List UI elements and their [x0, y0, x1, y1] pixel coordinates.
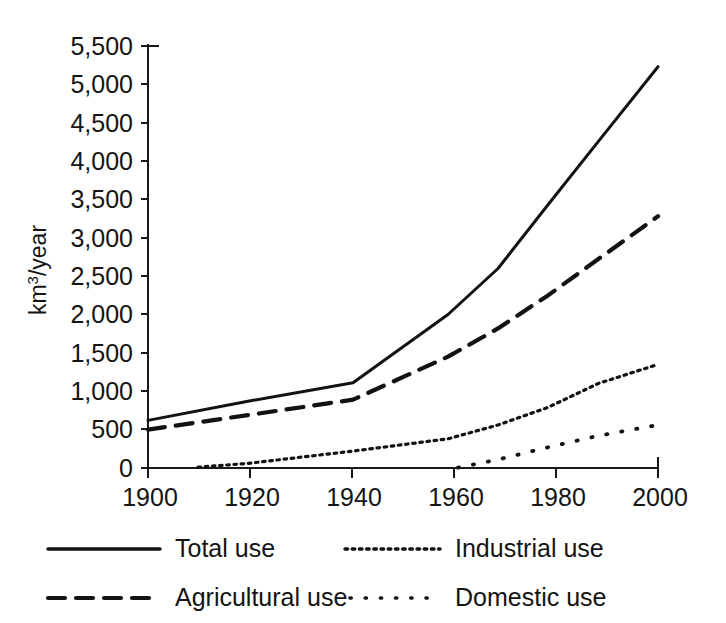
legend-label-industrial-use: Industrial use [455, 534, 604, 562]
y-axis-title-tail: /year [25, 225, 51, 276]
chart-legend: Total use Industrial use Agricultural us… [48, 534, 606, 611]
y-tick-label: 5,500 [70, 32, 133, 60]
y-tick-label: 0 [119, 454, 133, 482]
data-series-group [148, 67, 658, 468]
x-tick-marks [148, 468, 658, 478]
y-tick-label: 4,500 [70, 109, 133, 137]
series-line-domestic-use [458, 425, 658, 468]
line-chart: km3/year 5,500 5,000 [0, 0, 726, 623]
y-tick-label: 2,500 [70, 262, 133, 290]
y-axis-title-superscript: 3 [24, 276, 41, 284]
series-line-industrial-use [198, 364, 658, 467]
y-tick-label: 1,500 [70, 339, 133, 367]
svg-text:km3/year: km3/year [24, 225, 51, 315]
x-tick-label: 1980 [530, 483, 586, 511]
chart-figure: km3/year 5,500 5,000 [0, 0, 726, 623]
y-tick-labels: 5,500 5,000 4,500 4,000 3,500 3,000 2,50… [70, 32, 133, 482]
y-tick-label: 3,500 [70, 185, 133, 213]
legend-label-total-use: Total use [175, 534, 275, 562]
series-line-agricultural-use [148, 216, 658, 429]
x-tick-label: 1960 [428, 483, 484, 511]
y-tick-label: 500 [91, 415, 133, 443]
y-tick-label: 1,000 [70, 377, 133, 405]
x-tick-label: 1920 [224, 483, 280, 511]
x-tick-label: 2000 [632, 483, 688, 511]
y-tick-label: 4,000 [70, 147, 133, 175]
x-tick-label: 1900 [122, 483, 178, 511]
legend-label-domestic-use: Domestic use [455, 583, 606, 611]
x-tick-labels: 1900 1920 1940 1960 1980 2000 [122, 483, 688, 511]
y-tick-label: 2,000 [70, 300, 133, 328]
y-axis-title-base: km [25, 284, 51, 315]
y-axis-title: km3/year [24, 225, 51, 315]
x-tick-label: 1940 [326, 483, 382, 511]
y-tick-label: 5,000 [70, 70, 133, 98]
legend-label-agricultural-use: Agricultural use [175, 583, 347, 611]
y-tick-label: 3,000 [70, 224, 133, 252]
series-line-total-use [148, 67, 658, 421]
